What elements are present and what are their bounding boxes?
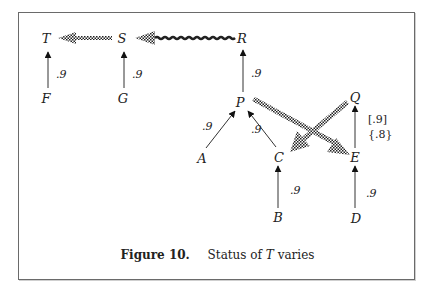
weight-B-C: .9 <box>290 185 301 196</box>
weight-E-Q-primary: [.9] <box>368 113 387 127</box>
node-P: P <box>236 96 245 109</box>
arrow-S-T <box>58 32 112 44</box>
node-T: T <box>42 32 51 45</box>
figure-caption: Figure 10. Status of T varies <box>0 248 435 262</box>
weight-G-S: .9 <box>132 69 143 80</box>
node-S: S <box>118 32 127 45</box>
weight-C-P: .9 <box>251 124 262 135</box>
weight-P-R: .9 <box>251 68 262 79</box>
defeat-arrows <box>58 31 350 155</box>
arrow-R-S <box>135 31 235 45</box>
node-Q: Q <box>350 91 361 104</box>
caption-prefix: Status of <box>208 248 262 262</box>
node-A: A <box>197 152 206 165</box>
caption-variable: T <box>266 248 274 262</box>
node-G: G <box>118 92 128 105</box>
weight-F-T: .9 <box>56 69 67 80</box>
node-D: D <box>351 212 361 225</box>
weight-A-P: .9 <box>202 121 213 132</box>
weight-D-E: .9 <box>366 188 377 199</box>
caption-suffix: varies <box>278 248 315 262</box>
figure-number: Figure 10. <box>121 248 190 262</box>
weight-E-Q-secondary: {.8} <box>368 128 393 142</box>
node-E: E <box>350 151 360 164</box>
node-C: C <box>274 151 284 164</box>
node-B: B <box>273 211 283 224</box>
node-R: R <box>237 32 247 45</box>
node-F: F <box>41 92 50 105</box>
